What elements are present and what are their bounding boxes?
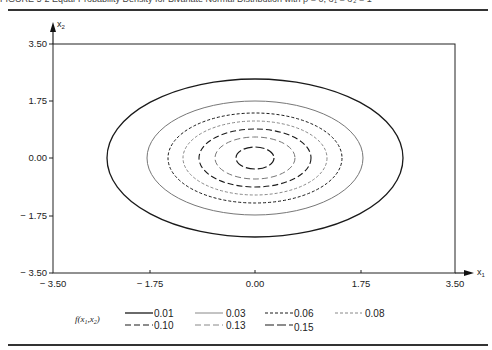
legend-label: 0.03	[226, 308, 246, 319]
contour-0.06	[168, 113, 342, 203]
x-tick-label: − 1.75	[137, 278, 164, 289]
contours	[107, 79, 403, 237]
contour-0.03	[147, 101, 363, 215]
plot-frame	[53, 44, 455, 273]
legend-label: 0.10	[154, 320, 174, 331]
legend-label: 0.13	[226, 320, 246, 331]
contour-chart: x2 x1 3.50 1.75 0.00 − 1.75 − 3.50 − 3.5…	[0, 0, 492, 350]
legend-label: 0.08	[365, 308, 385, 319]
bottom-rule	[8, 344, 488, 346]
legend: f(x1,x2) 0.01 0.03 0.06 0.08 0.10 0.13 0…	[75, 308, 385, 333]
contour-0.08	[183, 121, 327, 195]
y-axis-label: x2	[57, 19, 66, 30]
legend-label: 0.01	[154, 308, 174, 319]
x-axis-label: x1	[477, 267, 486, 278]
y-tick-label: 0.00	[29, 152, 48, 163]
x-tick-label: 0.00	[246, 278, 265, 289]
y-tick-label: − 3.50	[20, 267, 47, 278]
legend-label: 0.06	[294, 308, 314, 319]
x-tick-label: 1.75	[352, 278, 371, 289]
contour-0.10	[199, 129, 311, 187]
y-tick-label: 1.75	[29, 95, 48, 106]
y-tick-label: − 1.75	[20, 210, 47, 221]
contour-0.15	[236, 147, 274, 169]
contour-0.13	[215, 137, 295, 179]
contour-0.01	[107, 79, 403, 237]
y-ticks: 3.50 1.75 0.00 − 1.75 − 3.50	[20, 38, 53, 278]
y-axis-arrow-icon	[50, 22, 56, 32]
legend-title: f(x1,x2)	[75, 314, 100, 325]
x-tick-label: 3.50	[446, 278, 465, 289]
y-tick-label: 3.50	[29, 38, 48, 49]
legend-label: 0.15	[294, 322, 314, 333]
x-axis-arrow-icon	[464, 270, 474, 276]
x-tick-label: − 3.50	[40, 278, 67, 289]
